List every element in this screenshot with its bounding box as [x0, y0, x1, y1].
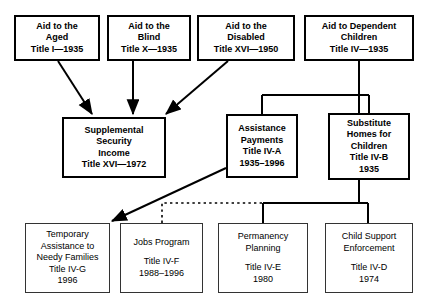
node-line: Title XVI—1972: [82, 159, 146, 171]
node-line: Blind: [138, 32, 161, 44]
node-line: Title XVI—1950: [214, 44, 278, 56]
node-line: Title IV-F: [144, 256, 180, 268]
node-line: Aged: [46, 32, 69, 44]
node-line: Substitute: [347, 118, 391, 130]
node-line: Needy Families: [36, 252, 98, 264]
node-line: Children: [341, 32, 378, 44]
node-line: Title IV-G: [49, 264, 86, 276]
node-line: Income: [98, 148, 130, 160]
node-line: Aid to the: [128, 21, 170, 33]
node-line: 1974: [359, 274, 379, 286]
node-line: Child Support: [342, 231, 397, 243]
node-aid-to-the-aged[interactable]: Aid to the Aged Title I—1935: [14, 15, 100, 61]
node-line: Permanency: [238, 231, 289, 243]
node-line: 1980: [253, 274, 273, 286]
node-line: Disabled: [227, 32, 265, 44]
node-line: 1935–1996: [239, 158, 284, 170]
node-line: Title X—1935: [121, 44, 177, 56]
node-line: Homes for: [347, 129, 392, 141]
node-line: Title IV-D: [351, 262, 388, 274]
node-line: Assistance to: [41, 241, 95, 253]
node-line: Title IV-E: [245, 262, 281, 274]
node-line: Aid to the: [225, 21, 267, 33]
node-substitute-homes-for-children[interactable]: Substitute Homes for Children Title IV-B…: [328, 113, 410, 180]
node-line: Temporary: [46, 229, 89, 241]
edge-jobs-program-dotted: [162, 203, 263, 223]
node-line: Aid to the: [36, 21, 78, 33]
node-line: Children: [351, 141, 388, 153]
node-assistance-payments[interactable]: Assistance Payments Title IV-A 1935–1996: [226, 114, 298, 178]
node-line: 1935: [359, 164, 379, 176]
node-line: Jobs Program: [133, 237, 189, 249]
edge-disabled-to-ssi: [166, 61, 228, 114]
edge-aged-to-ssi: [58, 61, 92, 114]
node-line: 1996: [57, 275, 77, 287]
node-permanency-planning[interactable]: Permanency Planning Title IV-E 1980: [218, 223, 308, 293]
node-supplemental-security-income[interactable]: Supplemental Security Income Title XVI—1…: [62, 117, 166, 178]
node-aid-to-the-disabled[interactable]: Aid to the Disabled Title XVI—1950: [197, 15, 295, 61]
node-line: 1988–1996: [139, 268, 184, 280]
node-line: Planning: [245, 243, 280, 255]
node-line: Title I—1935: [31, 44, 83, 56]
node-line: Title IV-A: [243, 146, 281, 158]
node-jobs-program[interactable]: Jobs Program Title IV-F 1988–1996: [120, 223, 203, 293]
node-line: Assistance: [238, 123, 286, 135]
node-line: Payments: [241, 135, 284, 147]
node-line: Title IV—1935: [330, 44, 388, 56]
node-aid-to-the-blind[interactable]: Aid to the Blind Title X—1935: [107, 15, 191, 61]
node-line: Title IV-B: [350, 152, 388, 164]
node-child-support-enforcement[interactable]: Child Support Enforcement Title IV-D 197…: [325, 223, 413, 293]
flowchart-diagram: Aid to the Aged Title I—1935 Aid to the …: [0, 0, 430, 308]
node-line: Security: [96, 136, 132, 148]
node-line: Aid to Dependent: [322, 21, 397, 33]
node-aid-to-dependent-children[interactable]: Aid to Dependent Children Title IV—1935: [304, 15, 414, 61]
node-temporary-assistance-to-needy-families[interactable]: Temporary Assistance to Needy Families T…: [25, 223, 110, 293]
node-line: Enforcement: [343, 243, 394, 255]
node-line: Supplemental: [84, 125, 143, 137]
